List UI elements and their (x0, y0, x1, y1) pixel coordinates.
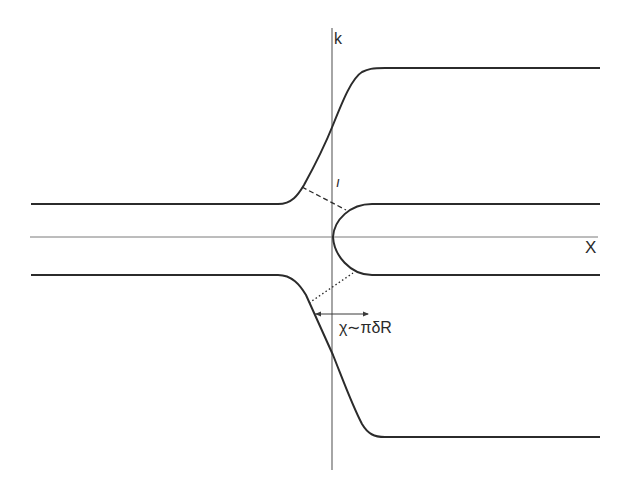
arrow-label: χ∼πδR (339, 318, 392, 337)
dashed-connector (302, 187, 346, 210)
horizontal-axis-label: X (585, 238, 596, 258)
upper-outer-curve (31, 68, 600, 204)
vertical-axis-label: k (334, 30, 342, 48)
dotted-connector (309, 273, 353, 303)
diagram-canvas (0, 0, 631, 494)
lower-outer-curve (31, 275, 600, 437)
tick-mark: ı (336, 174, 340, 190)
arrow-head-right-icon (363, 312, 369, 317)
inner-loop-curve (333, 204, 600, 275)
